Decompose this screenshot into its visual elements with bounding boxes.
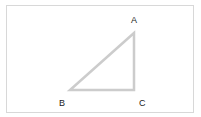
vertex-label-a: A (131, 15, 137, 25)
vertex-label-c: C (139, 98, 146, 108)
triangle-diagram: A B C (0, 0, 201, 117)
vertex-label-b: B (59, 98, 65, 108)
triangle-abc (70, 33, 134, 90)
